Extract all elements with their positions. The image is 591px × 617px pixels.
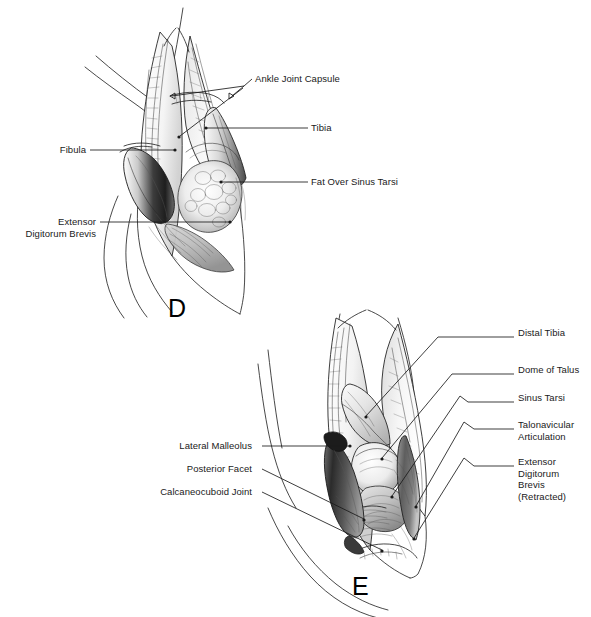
label-ankle-joint-capsule: Ankle Joint Capsule bbox=[255, 73, 340, 85]
label-fibula: Fibula bbox=[10, 144, 86, 156]
panel-d: Ankle Joint Capsule Tibia Fat Over Sinus… bbox=[0, 0, 591, 320]
label-posterior-facet: Posterior Facet bbox=[160, 463, 252, 475]
panel-d-artwork bbox=[0, 0, 591, 320]
label-calcaneocuboid-joint: Calcaneocuboid Joint bbox=[136, 486, 252, 498]
label-dome-of-talus: Dome of Talus bbox=[518, 364, 579, 376]
label-distal-tibia: Distal Tibia bbox=[518, 327, 565, 339]
label-extensor-digitorum-brevis-retracted: Extensor Digitorum Brevis (Retracted) bbox=[518, 456, 590, 502]
label-fat-over-sinus-tarsi: Fat Over Sinus Tarsi bbox=[311, 176, 398, 188]
anatomical-figure: Ankle Joint Capsule Tibia Fat Over Sinus… bbox=[0, 0, 591, 617]
label-lateral-malleolus: Lateral Malleolus bbox=[160, 440, 252, 452]
panel-letter-e: E bbox=[352, 572, 369, 601]
label-extensor-digitorum-brevis: Extensor Digitorum Brevis bbox=[6, 216, 96, 239]
panel-e: Distal Tibia Dome of Talus Sinus Tarsi T… bbox=[0, 300, 591, 617]
label-sinus-tarsi: Sinus Tarsi bbox=[518, 392, 565, 404]
label-tibia: Tibia bbox=[311, 122, 332, 134]
panel-e-artwork bbox=[0, 300, 591, 617]
label-talonavicular-articulation: Talonavicular Articulation bbox=[518, 419, 590, 442]
